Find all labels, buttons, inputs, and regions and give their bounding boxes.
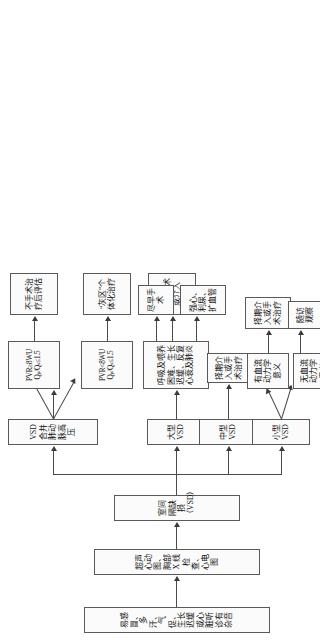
connector-trunk-large	[176, 451, 177, 475]
connector-trunk-medium	[228, 451, 229, 475]
node-large-symptoms: 呼吸及喂养困难、生长迟缓、反复心衰及肺炎	[143, 341, 209, 389]
node-no-surgery-eval: 不手术治疗后评估	[10, 273, 58, 315]
node-small-treatment-label: 择期介入或手术治疗	[254, 300, 282, 326]
connector-hemo-significant-treatment	[268, 335, 269, 353]
connector-trunk-small	[281, 451, 282, 475]
connector-symptoms-exams	[176, 581, 177, 607]
connector-medium-treatment	[228, 389, 229, 419]
node-diagnosis-label: 室间隔缺损（VSD）	[158, 498, 196, 518]
node-small-vsd: 小型 VSD	[252, 419, 310, 445]
arrowhead-exams-diagnosis	[174, 522, 180, 527]
arrowhead-trunk-vsdph	[51, 446, 57, 451]
arrowhead-vsdph-pvr-lt8-gt15	[70, 377, 78, 384]
arrowhead-pvr-lt8-gt15-outcome	[170, 316, 176, 321]
node-medical-therapy-label: 强心、利尿、扩血管	[189, 288, 217, 312]
connector-large-symptoms	[176, 395, 177, 419]
node-medium-treatment-label: 择期介入或手术治疗	[215, 356, 243, 380]
connector-pvr-lt8-le15-outcome	[107, 321, 108, 341]
connector-large-symptoms-medical-therapy	[196, 321, 197, 341]
node-pvr-lt8-qq-le15-line2: Qₚ/Qₛ≤1.5	[107, 344, 115, 386]
node-symptoms: 易感冒、多汗、气促、生长迟缓或心脏听诊有杂音	[84, 607, 270, 633]
node-medical-therapy: 强心、利尿、扩血管	[180, 285, 226, 315]
arrowhead-pvr-lt8-le15-outcome	[105, 316, 111, 321]
arrowhead-hemo-significant-treatment	[266, 330, 272, 335]
node-small-vsd-label: 小型 VSD	[272, 422, 291, 442]
node-symptoms-label: 易感冒、多汗、气促、生长迟缓或心脏听诊有杂音	[120, 610, 233, 630]
node-vsd-pulmonary-hypertension: VSD 合并肺动脉高压	[8, 419, 98, 445]
node-hemodynamic-insignificant-label: 无血流动力学意义	[300, 356, 313, 386]
node-follow-up: 随访观察	[288, 301, 313, 329]
arrowhead-symptoms-exams	[174, 576, 180, 581]
node-pvr-ge8-qq-le15-line1: PVR≥8WU	[26, 344, 34, 386]
connector-trunk-vertical	[53, 474, 281, 475]
node-exams-label: 超声心动图、胸部 X 线检查、心电图	[135, 552, 220, 572]
flowchart-canvas: 易感冒、多汗、气促、生长迟缓或心脏听诊有杂音 超声心动图、胸部 X 线检查、心电…	[0, 0, 313, 641]
node-exams: 超声心动图、胸部 X 线检查、心电图	[94, 549, 260, 575]
node-large-vsd: 大型 VSD	[147, 419, 205, 445]
connector-hemo-insignificant-followup	[300, 335, 301, 353]
arrowhead-trunk-medium	[226, 446, 232, 451]
connector-large-symptoms-early-surgery	[156, 321, 157, 341]
node-gray-zone: “灰区”个体化治疗	[83, 273, 131, 315]
arrowhead-vsdph-pvr-lt8-le15	[51, 390, 57, 395]
node-pvr-lt8-qq-le15-line1: PVR<8WU	[99, 344, 107, 386]
connector-pvr-lt8-gt15-outcome	[172, 321, 173, 341]
node-small-treatment: 择期介入或手术治疗	[245, 297, 291, 329]
node-follow-up-label: 随访观察	[296, 304, 313, 326]
arrowhead-large-symptoms-medical-therapy	[194, 316, 200, 321]
arrowhead-trunk-large	[174, 446, 180, 451]
node-medium-vsd: 中型 VSD	[199, 419, 257, 445]
connector-diagnosis-trunk	[176, 475, 177, 495]
arrowhead-pvr-ge8-outcome	[32, 316, 38, 321]
node-gray-zone-label: “灰区”个体化治疗	[98, 276, 117, 312]
arrowhead-medium-treatment	[226, 384, 232, 389]
node-hemodynamic-significant: 有血流动力学意义	[247, 353, 289, 389]
rotated-page-wrapper: 易感冒、多汗、气促、生长迟缓或心脏听诊有杂音 超声心动图、胸部 X 线检查、心电…	[0, 0, 313, 641]
node-no-surgery-eval-label: 不手术治疗后评估	[25, 276, 44, 312]
node-early-surgery-label: 尽早手术	[147, 288, 166, 312]
connector-trunk-vsdph	[53, 451, 54, 475]
connector-exams-diagnosis	[176, 527, 177, 549]
arrowhead-hemo-insignificant-followup	[298, 330, 304, 335]
node-hemodynamic-insignificant: 无血流动力学意义	[293, 353, 313, 389]
node-pvr-ge8-qq-le15-line2: Qₚ/Qₛ≤1.5	[34, 344, 42, 386]
node-early-surgery: 尽早手术	[138, 285, 174, 315]
node-large-vsd-label: 大型 VSD	[167, 422, 186, 442]
connector-pvr-ge8-outcome	[34, 321, 35, 341]
node-medium-vsd-label: 中型 VSD	[219, 422, 238, 442]
node-medium-treatment: 择期介入或手术治疗	[207, 353, 251, 383]
node-pvr-ge8-qq-le15: PVR≥8WU Qₚ/Qₛ≤1.5	[8, 341, 60, 389]
node-hemodynamic-significant-label: 有血流动力学意义	[254, 356, 282, 386]
connector-small-hemo-insignificant	[281, 386, 292, 419]
arrowhead-large-symptoms-early-surgery	[154, 316, 160, 321]
node-pvr-lt8-qq-le15: PVR<8WU Qₚ/Qₛ≤1.5	[81, 341, 133, 389]
node-diagnosis: 室间隔缺损（VSD）	[114, 495, 240, 521]
node-vsd-pulmonary-hypertension-label: VSD 合并肺动脉高压	[29, 422, 76, 442]
arrowhead-large-symptoms	[174, 390, 180, 395]
node-large-symptoms-label: 呼吸及喂养困难、生长迟缓、反复心衰及肺炎	[157, 344, 195, 386]
arrowhead-trunk-small	[279, 446, 285, 451]
